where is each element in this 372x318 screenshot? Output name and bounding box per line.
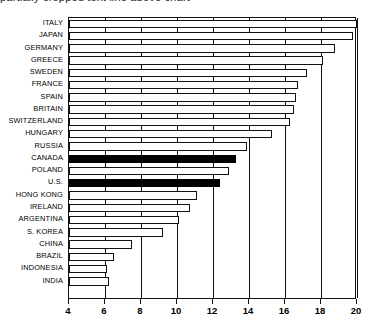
bar: [69, 142, 247, 150]
category-label: INDIA: [0, 275, 66, 287]
x-axis-tick-label: 20: [351, 305, 362, 316]
bar-row: [69, 177, 355, 189]
bar-row: [69, 227, 355, 239]
category-label: ITALY: [0, 17, 66, 29]
bar-series: [69, 18, 355, 298]
x-axis-tick: [68, 299, 69, 304]
bar: [69, 44, 335, 52]
bar: [69, 179, 220, 187]
bar: [69, 277, 109, 285]
bar-row: [69, 30, 355, 42]
category-label: GERMANY: [0, 42, 66, 54]
bar-row: [69, 141, 355, 153]
bar: [69, 228, 163, 236]
bar: [69, 130, 272, 138]
category-label: BRAZIL: [0, 250, 66, 262]
x-axis-tick-label: 4: [65, 305, 70, 316]
bar-row: [69, 79, 355, 91]
bar: [69, 253, 114, 261]
x-axis-tick: [104, 299, 105, 304]
bar-row: [69, 251, 355, 263]
gridline: [357, 18, 358, 298]
bar-row: [69, 190, 355, 202]
bar: [69, 118, 290, 126]
x-axis-tick-labels: 468101214161820: [0, 305, 372, 318]
bar: [69, 93, 296, 101]
category-label: ARGENTINA: [0, 213, 66, 225]
bar: [69, 20, 357, 28]
x-axis-tick-label: 12: [207, 305, 218, 316]
plot-area: [68, 17, 356, 299]
category-label: IRELAND: [0, 201, 66, 213]
bar: [69, 216, 179, 224]
bar-row: [69, 214, 355, 226]
category-label: INDONESIA: [0, 262, 66, 274]
category-label: U.S.: [0, 176, 66, 188]
bar-row: [69, 67, 355, 79]
x-axis-tick-label: 6: [101, 305, 106, 316]
category-label: JAPAN: [0, 29, 66, 41]
bar: [69, 56, 323, 64]
category-label: CANADA: [0, 152, 66, 164]
bar: [69, 191, 197, 199]
x-axis-tick-label: 14: [243, 305, 254, 316]
x-axis-tick: [176, 299, 177, 304]
bar: [69, 167, 229, 175]
x-axis-tick: [320, 299, 321, 304]
bar-row: [69, 18, 355, 30]
category-label: RUSSIA: [0, 140, 66, 152]
bar: [69, 155, 236, 163]
bar-row: [69, 276, 355, 288]
category-label: GREECE: [0, 54, 66, 66]
x-axis-tick-label: 18: [315, 305, 326, 316]
x-axis-tick-label: 10: [171, 305, 182, 316]
bar-row: [69, 128, 355, 140]
bar-row: [69, 239, 355, 251]
x-axis-tick-label: 16: [279, 305, 290, 316]
category-label: SWEDEN: [0, 66, 66, 78]
bar-row: [69, 92, 355, 104]
bar-row: [69, 43, 355, 55]
bar-row: [69, 153, 355, 165]
bar-row: [69, 263, 355, 275]
category-label: S. KOREA: [0, 226, 66, 238]
x-axis-tick: [356, 299, 357, 304]
category-label: CHINA: [0, 238, 66, 250]
category-label: FRANCE: [0, 78, 66, 90]
clipped-caption: partially cropped text line above chart: [0, 0, 372, 9]
clipped-caption-text: partially cropped text line above chart: [0, 0, 372, 3]
x-axis-tick-label: 8: [137, 305, 142, 316]
bar: [69, 32, 353, 40]
category-label: HONG KONG: [0, 189, 66, 201]
bar: [69, 81, 298, 89]
category-label: SWITZERLAND: [0, 115, 66, 127]
bar-chart: ITALYJAPANGERMANYGREECESWEDENFRANCESPAIN…: [0, 10, 372, 318]
category-label: HUNGARY: [0, 127, 66, 139]
x-axis-tick: [140, 299, 141, 304]
bar: [69, 105, 294, 113]
category-label: SPAIN: [0, 91, 66, 103]
bar-row: [69, 116, 355, 128]
bar-row: [69, 55, 355, 67]
x-axis-tick: [248, 299, 249, 304]
x-axis-tick: [284, 299, 285, 304]
category-axis-labels: ITALYJAPANGERMANYGREECESWEDENFRANCESPAIN…: [0, 17, 66, 299]
bar-row: [69, 165, 355, 177]
x-axis-tick: [212, 299, 213, 304]
bar: [69, 204, 190, 212]
bar: [69, 69, 307, 77]
category-label: POLAND: [0, 164, 66, 176]
bar: [69, 240, 132, 248]
category-label: BRITAIN: [0, 103, 66, 115]
bar-row: [69, 202, 355, 214]
bar-row: [69, 104, 355, 116]
bar: [69, 265, 107, 273]
